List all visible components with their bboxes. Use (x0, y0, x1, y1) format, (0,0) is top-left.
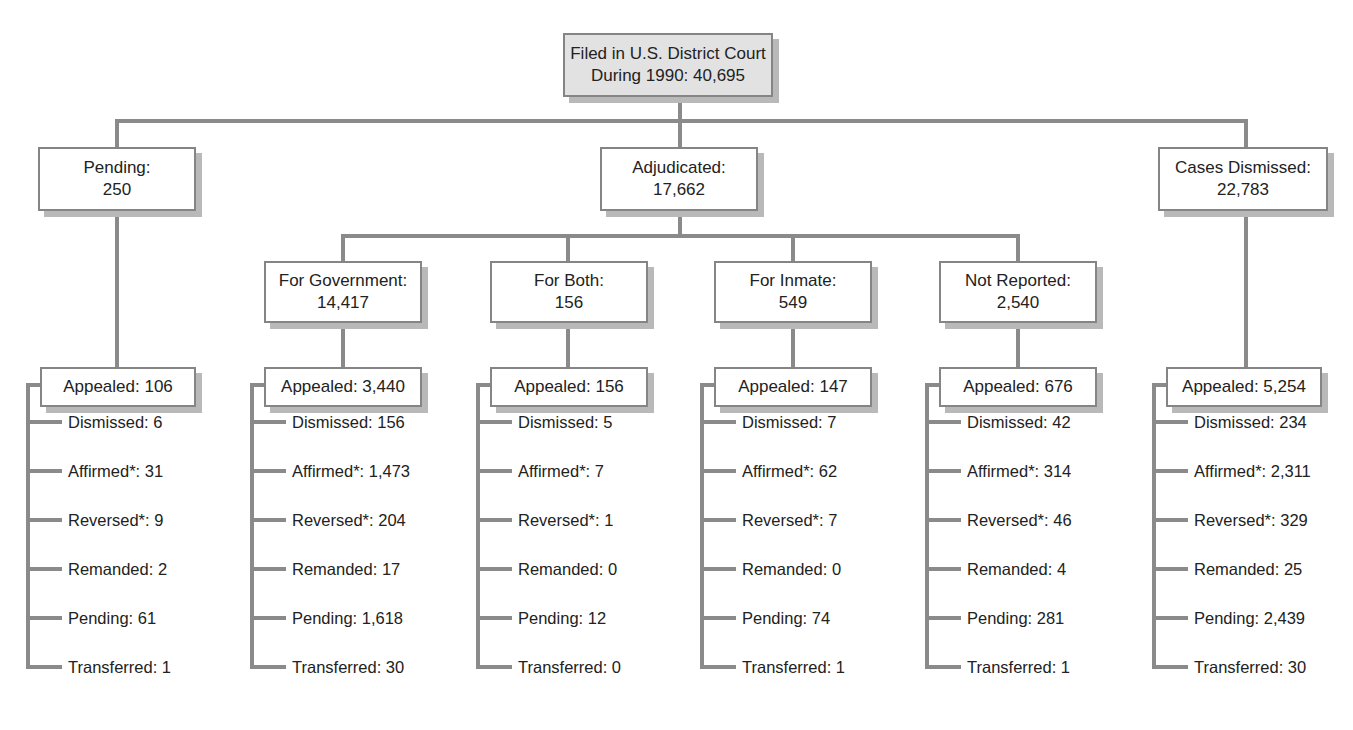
connector (1244, 210, 1248, 370)
connector (26, 469, 62, 473)
appealed-box: Appealed: 147 (714, 367, 872, 407)
connector (925, 616, 961, 620)
connector (26, 665, 62, 669)
connector (700, 383, 704, 667)
connector (1152, 665, 1188, 669)
appealed-box: Appealed: 676 (939, 367, 1097, 407)
outcome-item: Reversed*: 204 (292, 510, 406, 530)
connector (925, 383, 939, 387)
outcome-item: Transferred: 0 (518, 657, 621, 677)
appealed-box: Appealed: 156 (490, 367, 648, 407)
connector (476, 383, 490, 387)
outcome-item: Pending: 2,439 (1194, 608, 1305, 628)
outcome-item: Affirmed*: 62 (742, 461, 837, 481)
connector (925, 567, 961, 571)
connector (250, 518, 286, 522)
node-label: Cases Dismissed: (1175, 157, 1311, 179)
connector (678, 119, 682, 149)
node-pending: Pending: 250 (38, 147, 196, 211)
node-for-inmate: For Inmate: 549 (714, 261, 872, 323)
appealed-label: Appealed: 5,254 (1182, 376, 1306, 398)
connector (566, 234, 570, 262)
outcome-item: Transferred: 1 (68, 657, 171, 677)
connector (115, 210, 119, 370)
outcome-item: Dismissed: 42 (967, 412, 1071, 432)
node-adjudicated: Adjudicated: 17,662 (600, 147, 758, 211)
appealed-label: Appealed: 147 (738, 376, 848, 398)
connector (566, 322, 570, 370)
outcome-item: Affirmed*: 1,473 (292, 461, 410, 481)
outcome-item: Pending: 61 (68, 608, 156, 628)
node-cases-dismissed: Cases Dismissed: 22,783 (1158, 147, 1328, 211)
connector (26, 420, 62, 424)
node-value: 549 (779, 292, 807, 314)
connector (250, 665, 286, 669)
outcome-item: Transferred: 1 (967, 657, 1070, 677)
connector (678, 210, 682, 237)
connector (1244, 119, 1248, 149)
node-for-government: For Government: 14,417 (264, 261, 422, 323)
connector (250, 383, 264, 387)
connector (791, 234, 795, 262)
connector (250, 383, 254, 667)
outcome-item: Pending: 12 (518, 608, 606, 628)
connector (26, 518, 62, 522)
node-label: Not Reported: (965, 270, 1071, 292)
connector (341, 322, 345, 370)
outcome-item: Remanded: 0 (518, 559, 617, 579)
connector (476, 469, 512, 473)
connector (791, 322, 795, 370)
connector (26, 616, 62, 620)
outcome-item: Dismissed: 234 (1194, 412, 1307, 432)
connector (700, 616, 736, 620)
appealed-box: Appealed: 106 (40, 367, 196, 407)
node-label: Pending: (83, 157, 150, 179)
outcome-item: Remanded: 25 (1194, 559, 1302, 579)
connector (700, 518, 736, 522)
outcome-item: Dismissed: 6 (68, 412, 162, 432)
outcome-item: Remanded: 17 (292, 559, 400, 579)
outcome-item: Reversed*: 329 (1194, 510, 1308, 530)
connector (1152, 420, 1188, 424)
connector (925, 518, 961, 522)
outcome-item: Transferred: 30 (292, 657, 404, 677)
outcome-item: Dismissed: 156 (292, 412, 405, 432)
outcome-item: Affirmed*: 314 (967, 461, 1071, 481)
outcome-item: Reversed*: 9 (68, 510, 163, 530)
outcome-item: Dismissed: 5 (518, 412, 612, 432)
connector (700, 383, 714, 387)
connector (476, 420, 512, 424)
outcome-item: Pending: 74 (742, 608, 830, 628)
connector (1152, 567, 1188, 571)
connector (476, 518, 512, 522)
appealed-label: Appealed: 3,440 (281, 376, 405, 398)
connector (1016, 234, 1020, 262)
connector (1152, 383, 1156, 667)
connector (250, 616, 286, 620)
connector (1016, 322, 1020, 370)
connector (476, 616, 512, 620)
outcome-item: Dismissed: 7 (742, 412, 836, 432)
root-line1: Filed in U.S. District Court (570, 43, 766, 65)
outcome-item: Affirmed*: 2,311 (1194, 461, 1311, 481)
node-for-both: For Both: 156 (490, 261, 648, 323)
connector (1152, 616, 1188, 620)
connector (700, 665, 736, 669)
connector (700, 420, 736, 424)
outcome-item: Remanded: 4 (967, 559, 1066, 579)
root-node-filed: Filed in U.S. District Court During 1990… (563, 33, 773, 97)
connector (250, 469, 286, 473)
outcome-item: Pending: 1,618 (292, 608, 403, 628)
connector (925, 665, 961, 669)
appealed-label: Appealed: 156 (514, 376, 624, 398)
node-value: 17,662 (653, 179, 705, 201)
node-label: Adjudicated: (632, 157, 726, 179)
connector (341, 234, 1020, 238)
connector (476, 383, 480, 667)
root-line2: During 1990: 40,695 (591, 65, 745, 87)
connector (1152, 383, 1166, 387)
outcome-item: Affirmed*: 7 (518, 461, 604, 481)
connector (925, 420, 961, 424)
connector (26, 383, 30, 667)
connector (26, 567, 62, 571)
